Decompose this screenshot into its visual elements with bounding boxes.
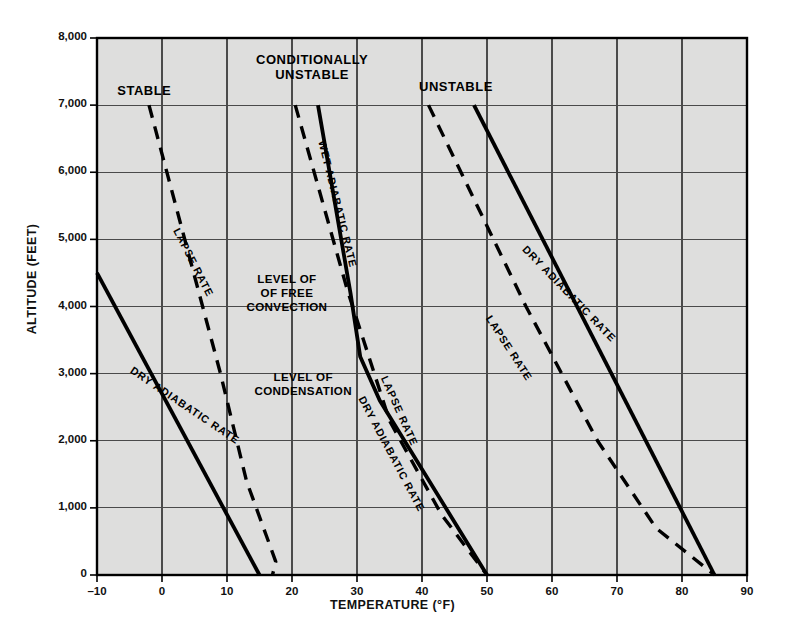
region-label-unstable: UNSTABLE bbox=[419, 79, 493, 94]
y-tick-label-6000: 6,000 bbox=[27, 164, 87, 176]
x-tick-label-40: 40 bbox=[402, 585, 442, 597]
x-tick-label-60: 60 bbox=[532, 585, 572, 597]
x-tick-label-10: 10 bbox=[207, 585, 247, 597]
y-tick-label-3000: 3,000 bbox=[27, 366, 87, 378]
lfc-line3: CONVECTION bbox=[247, 300, 328, 314]
x-tick-label-70: 70 bbox=[597, 585, 637, 597]
x-tick-label-80: 80 bbox=[662, 585, 702, 597]
lfc-line2: OF FREE bbox=[247, 286, 328, 300]
region-label-cond-line1: CONDITIONALLY bbox=[256, 52, 368, 67]
region-label-cond-line2: UNSTABLE bbox=[256, 67, 368, 82]
atmospheric-stability-chart: 01,0002,0003,0004,0005,0006,0007,0008,00… bbox=[0, 0, 785, 631]
x-tick-label-0: 0 bbox=[142, 585, 182, 597]
y-axis-title: ALTITUDE (FEET) bbox=[25, 199, 39, 359]
y-tick-label-1000: 1,000 bbox=[27, 500, 87, 512]
loc-line2: CONDENSATION bbox=[255, 384, 352, 398]
y-tick-label-7000: 7,000 bbox=[27, 97, 87, 109]
x-tick-label--10: –10 bbox=[77, 585, 117, 597]
x-tick-label-90: 90 bbox=[727, 585, 767, 597]
y-tick-label-8000: 8,000 bbox=[27, 30, 87, 42]
x-tick-label-50: 50 bbox=[467, 585, 507, 597]
annotation-level-of-condensation: LEVEL OF CONDENSATION bbox=[255, 370, 352, 398]
region-label-stable: STABLE bbox=[117, 83, 171, 98]
y-tick-label-0: 0 bbox=[27, 567, 87, 579]
lfc-line1: LEVEL OF bbox=[247, 272, 328, 286]
annotation-level-of-free-convection: LEVEL OF OF FREE CONVECTION bbox=[247, 272, 328, 314]
y-tick-label-2000: 2,000 bbox=[27, 433, 87, 445]
x-axis-title: TEMPERATURE (°F) bbox=[0, 598, 785, 612]
region-label-conditionally-unstable: CONDITIONALLY UNSTABLE bbox=[256, 52, 368, 83]
loc-line1: LEVEL OF bbox=[255, 370, 352, 384]
x-tick-label-30: 30 bbox=[337, 585, 377, 597]
x-tick-label-20: 20 bbox=[272, 585, 312, 597]
